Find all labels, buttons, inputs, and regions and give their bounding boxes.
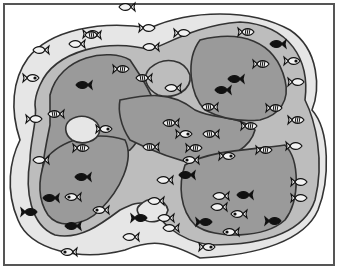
zone-map — [0, 0, 338, 269]
zone-pocket-left — [66, 116, 100, 142]
fish-distribution-illustration — [0, 0, 338, 269]
